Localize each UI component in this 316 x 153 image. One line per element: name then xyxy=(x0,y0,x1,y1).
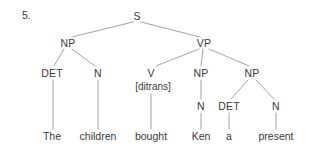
syntax-tree-figure: 5. S NP VP DET N V NP NP N DET N [ditran… xyxy=(0,0,316,153)
tree-leaf-a: a xyxy=(226,131,232,142)
branch-vp-np2 xyxy=(209,49,249,66)
branch-np2-det xyxy=(231,80,248,99)
tree-node-n-1: N xyxy=(94,68,102,79)
tree-node-s: S xyxy=(133,11,140,22)
tree-node-vp: VP xyxy=(197,38,211,49)
tree-feature-ditrans: [ditrans] xyxy=(135,81,171,92)
tree-leaf-present: present xyxy=(258,131,293,142)
tree-node-np-subject: NP xyxy=(61,38,76,49)
tree-leaf-ken: Ken xyxy=(192,131,211,142)
tree-node-det-2: DET xyxy=(218,101,240,112)
tree-node-np-object-1: NP xyxy=(194,68,209,79)
branch-vp-np1 xyxy=(201,49,203,66)
tree-node-np-object-2: NP xyxy=(245,68,260,79)
branch-np2-n xyxy=(256,80,274,99)
branch-s-vp xyxy=(141,22,200,37)
tree-node-n-3: N xyxy=(272,101,280,112)
branch-vp-v xyxy=(156,49,199,66)
branch-s-np xyxy=(72,22,133,37)
branch-np-det xyxy=(54,49,64,66)
item-number: 5. xyxy=(22,10,31,21)
tree-leaf-the: The xyxy=(43,131,61,142)
branch-np-n xyxy=(72,49,95,66)
tree-node-det-1: DET xyxy=(41,68,63,79)
tree-node-n-2: N xyxy=(197,101,205,112)
tree-leaf-bought: bought xyxy=(135,131,167,142)
tree-node-v: V xyxy=(147,68,154,79)
tree-leaf-children: children xyxy=(80,131,117,142)
